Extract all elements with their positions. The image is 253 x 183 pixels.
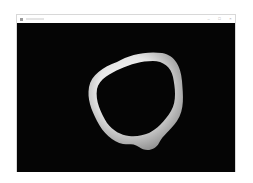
minimize-button[interactable]: – <box>206 17 211 22</box>
maximize-button[interactable]: □ <box>217 17 222 22</box>
title-bar[interactable]: – □ × <box>17 15 235 23</box>
close-button[interactable]: × <box>228 17 233 22</box>
window-controls: – □ × <box>206 15 233 23</box>
window-title <box>26 18 44 20</box>
ring-mesh-icon <box>17 23 235 172</box>
render-viewport[interactable] <box>17 23 235 172</box>
app-window: – □ × <box>16 14 236 172</box>
app-icon <box>20 18 23 21</box>
